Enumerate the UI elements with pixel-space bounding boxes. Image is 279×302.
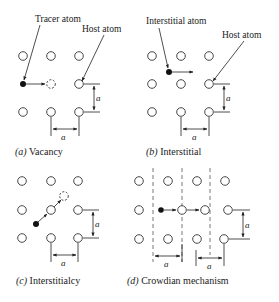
displaced-atom xyxy=(201,206,210,215)
dim-label: a xyxy=(192,132,197,142)
host-atom xyxy=(18,206,27,215)
host-atom xyxy=(75,52,84,61)
interstitial-atom xyxy=(166,69,172,75)
interstitial-pointer-line xyxy=(159,28,168,68)
horizontal-dimension-b: a xyxy=(181,117,209,142)
vertical-dimension-a: a xyxy=(84,84,101,112)
host-atom xyxy=(18,234,27,243)
vertical-dimension-d: a xyxy=(229,210,250,239)
dim-label: a xyxy=(207,261,212,271)
host-atom xyxy=(74,177,83,186)
panel-d-crowdian: a a a (d) Crowdian mechanism xyxy=(127,168,250,287)
host-atom-label: Host atom xyxy=(222,30,262,40)
dim-label: a xyxy=(96,93,101,103)
interstitial-atom-label: Interstitial atom xyxy=(146,16,207,26)
host-atom xyxy=(18,177,27,186)
host-atom xyxy=(148,52,157,61)
lattice-b xyxy=(148,52,214,117)
vacancy-site xyxy=(47,80,56,89)
host-atom xyxy=(205,52,214,61)
crowdion-atom xyxy=(158,207,164,213)
host-atom xyxy=(75,80,84,89)
host-atom xyxy=(19,52,28,61)
diffusion-mechanisms-figure: Tracer atom Host atom a a xyxy=(0,0,279,302)
dim-label: a xyxy=(164,259,169,269)
lattice-d xyxy=(135,177,233,244)
host-atom xyxy=(148,80,157,89)
host-atom xyxy=(47,108,56,117)
host-atom xyxy=(164,177,173,186)
host-atom xyxy=(164,235,173,244)
horizontal-dimension-c: a xyxy=(51,243,78,268)
tracer-pointer-line xyxy=(24,25,40,80)
dim-label: a xyxy=(226,93,231,103)
host-atom xyxy=(224,206,233,215)
host-atom xyxy=(19,108,28,117)
host-atom xyxy=(135,235,144,244)
displaced-atom xyxy=(178,206,187,215)
host-atom xyxy=(221,177,230,186)
panel-a-vacancy: Tracer atom Host atom a a xyxy=(15,14,122,158)
panel-b-interstitial: Interstitial atom Host atom a xyxy=(146,16,262,158)
tracer-atom xyxy=(20,81,26,87)
host-atom xyxy=(74,234,83,243)
horizontal-dimension-d-1: a xyxy=(155,244,182,269)
host-atom xyxy=(148,108,157,117)
host-atom xyxy=(205,108,214,117)
host-atom xyxy=(74,206,83,215)
host-atom xyxy=(135,177,144,186)
caption-b: (b) Interstitial xyxy=(146,146,201,158)
host-atom xyxy=(205,80,214,89)
host-atom xyxy=(135,206,144,215)
panel-c-interstitialcy: a a (c) Interstitialcy xyxy=(16,177,100,287)
displaced-interstitial-site xyxy=(60,192,69,201)
dim-label: a xyxy=(61,132,66,142)
caption-c: (c) Interstitialcy xyxy=(16,275,80,287)
tracer-atom-label: Tracer atom xyxy=(35,14,81,24)
lattice-c xyxy=(18,177,83,243)
vertical-dimension-c: a xyxy=(83,210,100,238)
host-atom xyxy=(177,52,186,61)
host-atom xyxy=(177,108,186,117)
vertical-dimension-b: a xyxy=(214,84,231,112)
host-atom xyxy=(220,235,229,244)
caption-d: (d) Crowdian mechanism xyxy=(127,275,229,287)
jump-arrow-1 xyxy=(38,214,47,222)
host-atom xyxy=(193,235,202,244)
host-atom xyxy=(177,80,186,89)
jump-arrow-2 xyxy=(54,200,61,207)
host-atom xyxy=(47,177,56,186)
host-atom xyxy=(47,234,56,243)
host-atom xyxy=(47,52,56,61)
host-pointer-line xyxy=(82,35,104,81)
host-atom xyxy=(193,177,202,186)
dim-label: a xyxy=(95,219,100,229)
host-atom-label: Host atom xyxy=(82,24,122,34)
dim-label: a xyxy=(245,220,250,230)
host-pointer-line xyxy=(213,41,244,81)
horizontal-dimension-a: a xyxy=(51,117,79,142)
caption-a: (a) Vacancy xyxy=(15,146,63,158)
host-atom xyxy=(75,108,84,117)
dim-label: a xyxy=(61,258,66,268)
